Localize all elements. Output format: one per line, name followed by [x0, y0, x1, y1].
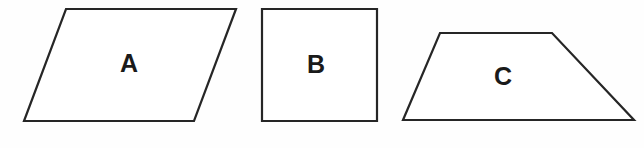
shape-label-c: C — [494, 62, 512, 90]
shapes-svg-canvas: A B C — [0, 0, 644, 148]
shapes-figure: A B C — [0, 0, 644, 148]
shape-label-b: B — [307, 50, 325, 78]
shape-label-a: A — [120, 49, 138, 77]
trapezoid-shape-c — [403, 33, 634, 120]
